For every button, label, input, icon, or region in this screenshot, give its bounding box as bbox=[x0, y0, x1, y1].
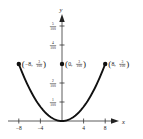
point-y-value: 3100 bbox=[36, 60, 42, 68]
parabola-chart: x −8−448 y 1100210041005100 (−8,3100)(0,… bbox=[0, 0, 143, 139]
y-tick-label: 5100 bbox=[50, 22, 56, 30]
point-x-value: 8, bbox=[111, 61, 116, 67]
y-tick-label: 2100 bbox=[50, 79, 56, 87]
point-y-value: 3100 bbox=[76, 60, 82, 68]
point-y-value: 3100 bbox=[119, 60, 125, 68]
x-tick-label: −4 bbox=[37, 125, 43, 131]
x-tick-label: 8 bbox=[104, 125, 107, 131]
x-tick-label: −8 bbox=[16, 125, 22, 131]
paren-close: ) bbox=[83, 59, 86, 69]
fraction-denominator: 100 bbox=[120, 64, 126, 68]
fraction-denominator: 100 bbox=[76, 64, 82, 68]
x-axis-arrow-icon bbox=[111, 118, 119, 123]
y-tick-label: 4100 bbox=[50, 41, 56, 49]
point-annotation: (−8,3100) bbox=[17, 59, 47, 69]
point-marker-icon bbox=[17, 62, 21, 66]
annotated-points: (−8,3100)(0,3100)(8,3100) bbox=[17, 59, 130, 69]
point-marker-icon bbox=[60, 62, 64, 66]
point-annotation: (0,3100) bbox=[60, 59, 86, 69]
fraction-denominator: 100 bbox=[50, 103, 56, 107]
fraction-denominator: 100 bbox=[50, 84, 56, 88]
point-x-value: −8, bbox=[25, 61, 33, 67]
y-tick-label: 1100 bbox=[50, 98, 56, 106]
y-axis-label: y bbox=[59, 6, 63, 13]
paren-close: ) bbox=[43, 59, 46, 69]
fraction-denominator: 100 bbox=[50, 27, 56, 31]
point-x-value: 0, bbox=[68, 61, 73, 67]
fraction-denominator: 100 bbox=[50, 46, 56, 50]
point-marker-icon bbox=[103, 62, 107, 66]
y-axis-arrow-icon bbox=[59, 14, 64, 22]
x-axis-label: x bbox=[121, 118, 125, 125]
fraction-denominator: 100 bbox=[36, 64, 42, 68]
x-tick-label: 4 bbox=[82, 125, 85, 131]
point-annotation: (8,3100) bbox=[103, 59, 129, 69]
paren-close: ) bbox=[126, 59, 129, 69]
